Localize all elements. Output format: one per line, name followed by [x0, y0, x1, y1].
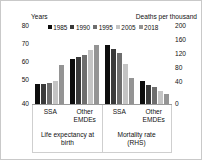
panel-title: Mortality rate (RHS)	[117, 131, 155, 147]
chart-bar[interactable]	[82, 55, 87, 104]
left-axis-tick: 40	[9, 100, 29, 107]
legend-swatch-icon	[48, 25, 52, 29]
legend-swatch-icon	[93, 25, 97, 29]
panel-title-line1: Mortality rate	[117, 131, 155, 138]
category-label-line1: SSA	[44, 108, 57, 115]
category-label-line1: Other	[145, 108, 162, 115]
right-axis-tick: 40	[175, 78, 197, 85]
chart-bar[interactable]	[123, 64, 128, 104]
bar-group	[32, 32, 67, 104]
category-label: Other EMDEs	[74, 108, 96, 124]
chart-bar[interactable]	[140, 81, 145, 104]
chart-bar[interactable]	[70, 59, 75, 104]
chart-bar[interactable]	[35, 84, 40, 104]
chart-bar[interactable]	[59, 65, 64, 104]
panel-title-band: Life expectancy at birth Mortality rate …	[32, 129, 172, 153]
legend-item-label: 2005	[121, 24, 135, 31]
category-label: SSA	[44, 108, 57, 116]
right-axis-tick: 200	[175, 22, 197, 29]
left-axis-tick: 60	[9, 58, 29, 65]
category-cell: SSA	[33, 105, 68, 129]
chart-bar[interactable]	[94, 45, 99, 104]
legend-item-label: 1990	[76, 24, 90, 31]
category-label-line2: EMDEs	[143, 116, 165, 123]
category-cell: SSA	[102, 105, 137, 129]
plot-area	[32, 32, 172, 104]
panel-title-line2: (RHS)	[127, 139, 145, 146]
left-axis-tick: 70	[9, 40, 29, 47]
chart-bar[interactable]	[146, 85, 151, 104]
left-axis-tick: 50	[9, 76, 29, 83]
right-axis-tick: 160	[175, 36, 197, 43]
legend-item[interactable]: 1995	[93, 24, 113, 31]
panel-title: Life expectancy at birth	[41, 131, 94, 147]
panel-title-line2: birth	[61, 139, 74, 146]
category-label-line2: EMDEs	[74, 116, 96, 123]
legend-item-label: 1995	[99, 24, 113, 31]
category-cell: Other EMDEs	[137, 105, 172, 129]
panel-title-line1: Life expectancy at	[41, 131, 94, 138]
bar-group	[102, 32, 137, 104]
legend-item[interactable]: 2005	[116, 24, 136, 31]
category-label: SSA	[113, 108, 126, 116]
bar-group	[137, 32, 172, 104]
chart-container: Years Deaths per thousand 1985 1990 1995…	[0, 0, 202, 160]
chart-bar[interactable]	[152, 87, 157, 104]
legend-item[interactable]: 2018	[139, 24, 159, 31]
panel-cell: Life expectancy at birth	[33, 129, 102, 152]
left-axis-title: Years	[31, 13, 48, 21]
chart-bar[interactable]	[111, 49, 116, 104]
right-axis-title: Deaths per thousand	[136, 13, 197, 21]
bar-group	[67, 32, 102, 104]
category-label-line1: Other	[76, 108, 93, 115]
chart-bar[interactable]	[105, 45, 110, 104]
legend-item-label: 1985	[53, 24, 67, 31]
chart-bar[interactable]	[117, 53, 122, 104]
category-label-line1: SSA	[113, 108, 126, 115]
chart-bar[interactable]	[88, 50, 93, 104]
category-label: Other EMDEs	[143, 108, 165, 124]
chart-bar[interactable]	[41, 84, 46, 104]
legend-item[interactable]: 1985	[48, 24, 68, 31]
panel-cell: Mortality rate (RHS)	[102, 129, 171, 152]
chart-bar[interactable]	[47, 83, 52, 104]
legend-item-label: 2018	[144, 24, 158, 31]
chart-bar[interactable]	[76, 57, 81, 104]
right-axis-tick: 80	[175, 64, 197, 71]
chart-bar[interactable]	[53, 81, 58, 104]
legend-item[interactable]: 1990	[70, 24, 90, 31]
chart-bar[interactable]	[164, 94, 169, 104]
category-cell: Other EMDEs	[68, 105, 103, 129]
legend-swatch-icon	[139, 25, 143, 29]
chart-legend: 1985 1990 1995 2005 2018	[33, 22, 173, 32]
right-axis-tick: 120	[175, 50, 197, 57]
right-axis-tick: 0	[175, 100, 197, 107]
left-axis-tick: 80	[9, 22, 29, 29]
chart-bar[interactable]	[158, 91, 163, 104]
chart-bar[interactable]	[129, 78, 134, 104]
legend-swatch-icon	[116, 25, 120, 29]
legend-swatch-icon	[70, 25, 74, 29]
